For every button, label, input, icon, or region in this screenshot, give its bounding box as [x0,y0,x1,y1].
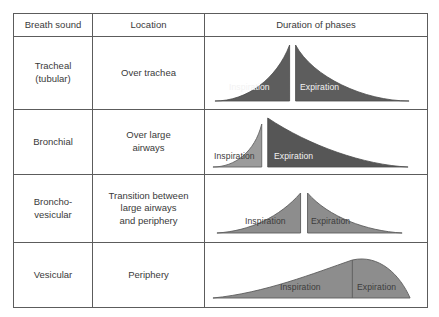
header-location-label: Location [93,17,204,34]
phase-chart-tracheal-svg [205,37,427,109]
phase-chart-tracheal: Inspiration Expiration [205,37,427,109]
cell-location-vesicular: Periphery [93,243,205,308]
breath-sound-line2: (tubular) [35,73,70,84]
cell-breath-sound-vesicular: Vesicular [14,243,93,308]
expiration-area-bronchovesicular [308,193,403,233]
header-breath-sound: Breath sound [14,14,93,37]
header-duration: Duration of phases [205,14,428,37]
table-row: Tracheal (tubular) Over trachea [14,37,428,110]
phase-chart-bronchial: Inspiration Expiration [205,110,427,174]
cell-location-tracheal: Over trachea [93,37,205,110]
breath-sound-line1: Broncho- [34,196,73,207]
phase-chart-vesicular: Inspiration Expiration [205,243,427,307]
cell-location-bronchial: Over large airways [93,110,205,175]
cell-duration-bronchovesicular: Inspiration Expiration [205,175,428,243]
location-line1: Transition between [109,190,189,201]
location-line3: and periphery [119,215,177,226]
phase-chart-bronchovesicular-svg [205,175,427,242]
table-row: Broncho- vesicular Transition between la… [14,175,428,243]
phase-chart-bronchial-svg [205,110,427,174]
expiration-area-tracheal [296,45,409,101]
location-line2: large airways [121,202,177,213]
breath-sound-text: Vesicular [14,267,92,284]
cell-duration-vesicular: Inspiration Expiration [205,243,428,308]
expiration-area-bronchial [268,118,408,167]
cell-location-bronchovesicular: Transition between large airways and per… [93,175,205,243]
cell-breath-sound-bronchial: Bronchial [14,110,93,175]
phase-chart-vesicular-svg [205,243,427,307]
phase-chart-bronchovesicular: Inspiration Expiration [205,175,427,242]
figure-page: Breath sound Location Duration of phases… [0,0,439,317]
breath-sounds-table: Breath sound Location Duration of phases… [13,13,428,308]
table-row: Bronchial Over large airways [14,110,428,175]
cell-duration-bronchial: Inspiration Expiration [205,110,428,175]
table-row: Vesicular Periphery Inspiration Expirat [14,243,428,308]
location-text: Over trachea [93,65,204,82]
inspiration-area-bronchovesicular [217,193,301,233]
table-header-row: Breath sound Location Duration of phases [14,14,428,37]
cell-breath-sound-bronchovesicular: Broncho- vesicular [14,175,93,243]
inspiration-area-tracheal [215,45,290,101]
header-breath-sound-label: Breath sound [14,17,92,34]
location-line1: Over large [126,129,170,140]
inspiration-area-bronchial [213,124,262,167]
header-duration-label: Duration of phases [205,17,427,34]
breath-sound-text: Bronchial [14,134,92,151]
cell-breath-sound-tracheal: Tracheal (tubular) [14,37,93,110]
breath-sound-line1: Tracheal [35,60,72,71]
header-location: Location [93,14,205,37]
cell-duration-tracheal: Inspiration Expiration [205,37,428,110]
location-text: Periphery [93,267,204,284]
breath-sounds-table-wrapper: Breath sound Location Duration of phases… [13,13,427,303]
breath-area-vesicular [213,259,410,298]
breath-sound-line2: vesicular [34,209,72,220]
location-line2: airways [132,142,164,153]
